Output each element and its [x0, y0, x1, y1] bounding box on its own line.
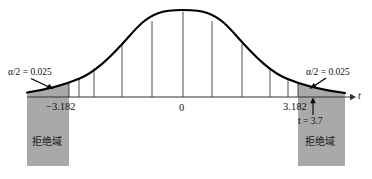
alpha-left-leader-arrow — [31, 79, 54, 90]
t-axis-label: t — [358, 91, 361, 101]
critical-value-label-left: −3.182 — [46, 102, 76, 113]
figure-canvas — [0, 0, 372, 179]
rejection-region-label-left: 拒绝域 — [32, 137, 62, 147]
test-statistic-label: t = 3.7 — [298, 117, 323, 127]
critical-value-label-right: 3.182 — [283, 102, 307, 113]
ordinate-lines — [69, 12, 298, 98]
rejection-region-label-right: 拒绝域 — [305, 137, 335, 147]
center-value-label: 0 — [179, 103, 184, 114]
alpha-half-label-right: α/2 = 0.025 — [306, 68, 350, 78]
alpha-half-label-left: α/2 = 0.025 — [8, 68, 52, 78]
density-curve — [27, 10, 345, 93]
t-distribution-figure: α/2 = 0.025 α/2 = 0.025 −3.182 0 3.182 t… — [0, 0, 372, 179]
t-axis-arrowhead — [350, 94, 356, 100]
